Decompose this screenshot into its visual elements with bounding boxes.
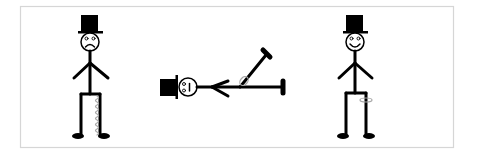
left-arm bbox=[74, 63, 90, 78]
sad-face-icon bbox=[81, 33, 99, 51]
top-hat-icon bbox=[160, 75, 178, 99]
right-foot bbox=[98, 133, 110, 139]
comic-canvas bbox=[0, 0, 478, 156]
happy-face-icon bbox=[346, 33, 364, 51]
raised-leg bbox=[240, 55, 266, 87]
right-arm bbox=[355, 63, 372, 78]
left-foot bbox=[337, 133, 349, 139]
top-hat-icon bbox=[343, 15, 368, 34]
fallen-figure bbox=[160, 50, 283, 99]
dazed-face-icon bbox=[179, 78, 197, 96]
spring-icon bbox=[96, 96, 99, 135]
right-foot bbox=[363, 133, 375, 139]
comic-stage bbox=[0, 0, 478, 156]
top-hat-icon bbox=[78, 15, 103, 34]
right-arm bbox=[90, 63, 108, 78]
left-foot bbox=[72, 133, 84, 139]
sad-figure bbox=[72, 15, 110, 139]
left-arm bbox=[339, 63, 355, 78]
happy-figure bbox=[337, 15, 375, 139]
